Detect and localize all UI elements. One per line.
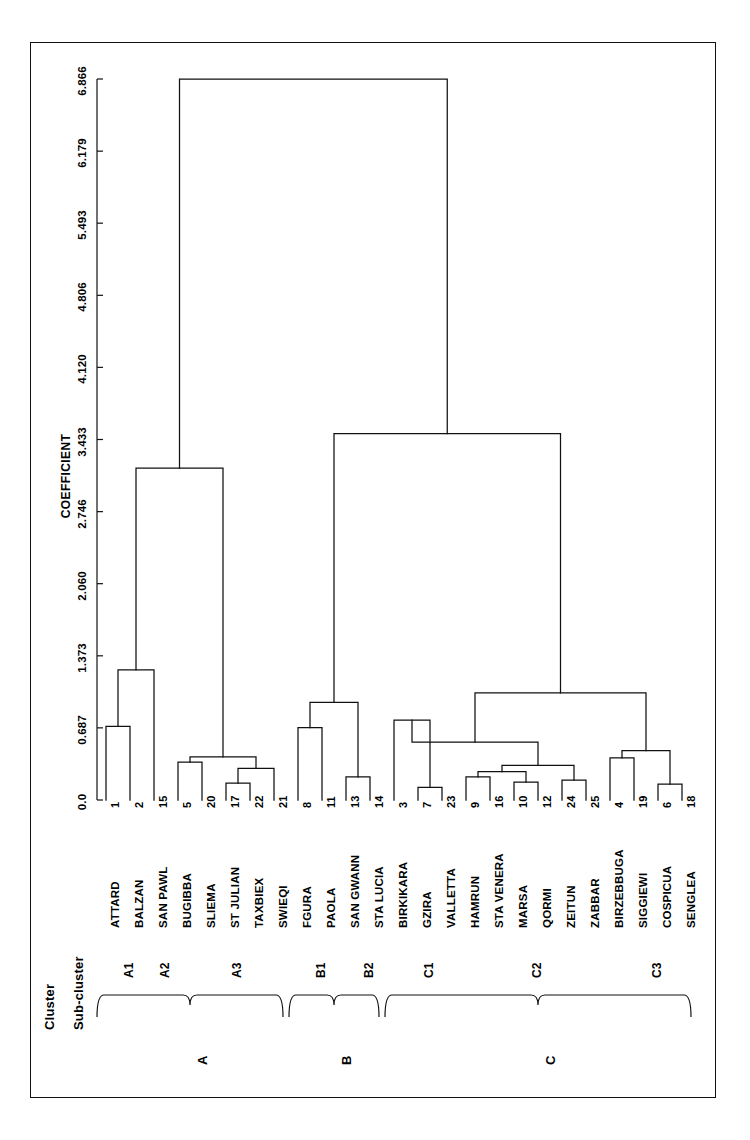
leaf-name: STA LUCIA [374,866,386,928]
dendrogram-link [334,434,561,703]
leaf-number: 14 [374,796,385,808]
axis-tick-label: 5.493 [77,211,89,240]
row-header-subcluster: Sub-cluster [72,956,85,1030]
leaf-number: 3 [398,802,409,808]
leaf-name: SENGLEA [686,871,698,928]
dendrogram-link [118,670,154,800]
leaf-name: SAN PAWL [158,867,170,928]
axis-tick-label: 0.687 [77,715,89,744]
dendrogram-link [610,758,634,800]
leaf-name: SWIEQI [278,885,290,928]
subcluster-label: A2 [159,962,171,978]
leaf-name: BIRZEBBUGA [614,849,626,928]
axis-tick-label: 1.373 [77,643,89,672]
dendrogram-link [136,468,223,757]
subcluster-label: C3 [651,962,663,978]
leaf-number: 22 [254,796,265,808]
axis-tick-label: 4.806 [77,283,89,312]
dendrogram-link [502,765,574,780]
leaf-number: 6 [662,802,673,808]
axis-tick-label: 2.746 [77,499,89,528]
leaf-name: COSPICUA [662,866,674,928]
leaf-name: QORMI [542,888,554,928]
leaf-number: 13 [350,796,361,808]
subcluster-label: B1 [315,962,327,978]
leaf-number: 24 [566,796,577,808]
dendrogram-figure: 0.00.6871.3732.0602.7463.4334.1204.8065.… [0,0,750,1140]
axis-tick-label: 4.120 [77,355,89,384]
leaf-name: HAMRUN [470,876,482,928]
leaf-name: BALZAN [134,880,146,928]
leaf-name: BIRKIKARA [398,862,410,928]
cluster-brace [385,995,691,1017]
leaf-name: SIGGIEWI [638,873,650,928]
subcluster-label: C2 [531,962,543,978]
leaf-name: GZIRA [422,891,434,928]
leaf-number: 2 [134,802,145,808]
leaf-number: 19 [638,796,649,808]
leaf-number: 20 [206,796,217,808]
dendrogram-link [178,762,202,800]
axis-tick-label: 3.433 [77,427,89,456]
cluster-brace [289,995,379,1017]
leaf-number: 12 [542,796,553,808]
leaf-number: 9 [470,802,481,808]
leaf-name: SLIEMA [206,883,218,928]
subcluster-label: A3 [231,962,243,978]
cluster-brace [97,995,283,1017]
subcluster-label: C1 [423,962,435,978]
leaf-number: 18 [686,796,697,808]
leaf-name: MARSA [518,885,530,928]
leaf-name: FGURA [302,886,314,928]
axis-tick-label: 6.866 [77,66,89,95]
cluster-label: A [196,1056,209,1066]
leaf-name: ZEITUN [566,885,578,928]
leaf-number: 16 [494,796,505,808]
dendrogram-link [658,784,682,800]
leaf-number: 15 [158,796,169,808]
row-header-cluster: Cluster [43,984,56,1030]
leaf-number: 1 [110,802,121,808]
dendrogram-link [310,702,358,777]
leaf-name: VALLETTA [446,868,458,928]
dendrogram-link [466,777,490,800]
axis-tick-label: 0.0 [77,794,89,810]
dendrogram-link [106,726,130,800]
axis-title: COEFFICIENT [60,433,72,517]
leaf-number: 23 [446,796,457,808]
leaf-name: ST JULIAN [230,867,242,928]
leaf-number: 10 [518,796,529,808]
cluster-label: B [340,1056,353,1066]
leaf-number: 8 [302,802,313,808]
leaf-name: SAN GWANN [350,855,362,928]
leaf-name: STA VENERA [494,853,506,928]
leaf-name: ATTARD [110,881,122,928]
leaf-number: 25 [590,796,601,808]
leaf-name: PAOLA [326,888,338,928]
leaf-number: 5 [182,802,193,808]
axis-tick-label: 2.060 [77,571,89,600]
cluster-label: C [544,1056,557,1066]
subcluster-label: B2 [363,962,375,978]
leaf-number: 4 [614,802,625,808]
leaf-number: 11 [326,796,337,808]
leaf-number: 7 [422,802,433,808]
leaf-name: BUGIBBA [182,873,194,928]
leaf-number: 21 [278,796,289,808]
axis-tick-label: 6.179 [77,139,89,168]
dendrogram-link [418,787,442,800]
leaf-name: TAXBIEX [254,878,266,928]
dendrogram-link [298,728,322,800]
leaf-number: 17 [230,796,241,808]
dendrogram-link [622,751,670,785]
subcluster-label: A1 [123,962,135,978]
dendrogram-link [180,79,448,468]
leaf-name: ZABBAR [590,878,602,928]
